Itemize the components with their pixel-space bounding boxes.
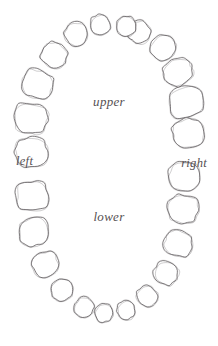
teeth-arch-svg: [0, 0, 218, 346]
tooth-LL4: [74, 296, 95, 318]
teeth-layer: [14, 14, 204, 323]
tooth-LL5: [51, 279, 74, 301]
dental-arch-diagram: upper lower left right: [0, 0, 218, 346]
tooth-LL6: [31, 251, 59, 278]
tooth-UR3: [117, 16, 137, 36]
tooth-LL3: [95, 303, 114, 322]
tooth-UR6: [162, 58, 194, 87]
tooth-UR5: [150, 35, 177, 61]
tooth-LR6: [163, 230, 193, 258]
tooth-LR3: [117, 300, 135, 320]
tooth-UR7: [171, 118, 204, 149]
label-upper: upper: [0, 95, 218, 108]
tooth-UL3: [91, 14, 111, 36]
tooth-UL4: [64, 21, 88, 46]
label-lower: lower: [0, 210, 218, 223]
label-left: left: [16, 155, 33, 168]
tooth-UL5: [40, 41, 68, 69]
tooth-LR5: [153, 261, 180, 287]
label-right: right: [181, 157, 207, 170]
tooth-LL8: [15, 181, 49, 211]
tooth-LR4: [136, 285, 158, 307]
